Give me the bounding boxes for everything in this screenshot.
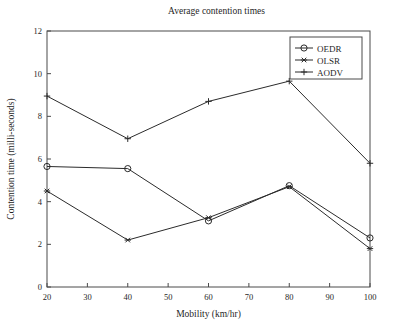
y-tick-label: 2 [38, 239, 42, 249]
x-tick-label: 40 [124, 292, 133, 302]
x-tick-label: 20 [43, 292, 52, 302]
x-tick-label: 30 [83, 292, 92, 302]
legend-label-aodv: AODV [317, 68, 343, 78]
chart-figure: Average contention times0246810122030405… [0, 0, 394, 329]
chart-legend: OEDROLSRAODV [290, 37, 362, 79]
series-aodv [44, 78, 373, 167]
series-olsr [44, 184, 373, 250]
y-tick-label: 6 [38, 154, 42, 164]
series-line-aodv [47, 81, 370, 163]
x-tick-label: 90 [325, 292, 334, 302]
line-chart: Average contention times0246810122030405… [0, 0, 394, 329]
chart-title: Average contention times [168, 6, 265, 16]
x-tick-label: 100 [364, 292, 377, 302]
legend-label-oedr: OEDR [317, 44, 342, 54]
y-tick-label: 12 [34, 26, 43, 36]
y-tick-label: 10 [34, 69, 43, 79]
y-tick-label: 4 [38, 197, 43, 207]
y-tick-label: 8 [38, 111, 42, 121]
x-tick-label: 80 [285, 292, 294, 302]
x-tick-label: 50 [164, 292, 173, 302]
x-axis-label: Mobility (km/hr) [176, 309, 241, 320]
legend-label-olsr: OLSR [317, 56, 340, 66]
x-tick-label: 60 [204, 292, 213, 302]
series-line-oedr [47, 166, 370, 237]
y-tick-label: 0 [38, 282, 42, 292]
x-tick-label: 70 [245, 292, 254, 302]
y-axis-label: Contention time (milli-seconds) [6, 98, 17, 219]
series-oedr [44, 163, 373, 241]
